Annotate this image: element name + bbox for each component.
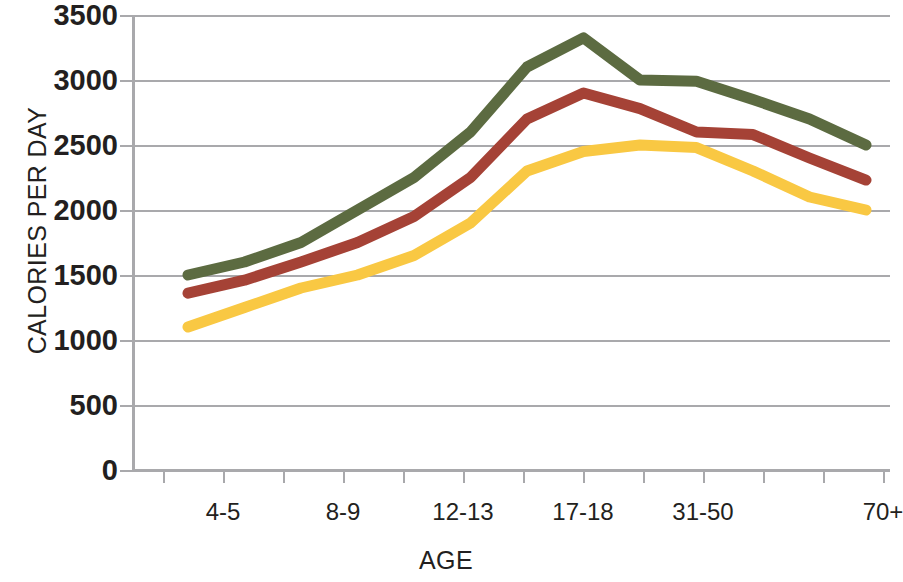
y-axis-tick bbox=[120, 15, 132, 17]
x-axis-tick bbox=[703, 470, 705, 483]
y-axis-tick bbox=[120, 340, 132, 342]
x-axis-tick bbox=[283, 470, 285, 483]
y-axis-tick bbox=[120, 145, 132, 147]
x-axis-tick-labels: 4-58-912-1317-1831-5070+ bbox=[0, 498, 892, 532]
y-axis-tick bbox=[120, 470, 132, 472]
y-axis-tick bbox=[120, 80, 132, 82]
x-axis-tick-label: 70+ bbox=[863, 498, 903, 526]
x-axis-tick bbox=[343, 470, 345, 483]
x-axis-tick bbox=[523, 470, 525, 483]
y-axis-tick bbox=[120, 275, 132, 277]
x-axis-tick bbox=[223, 470, 225, 483]
y-axis-tick-label: 3500 bbox=[53, 1, 118, 30]
x-axis-tick bbox=[763, 470, 765, 483]
x-axis-tick bbox=[643, 470, 645, 483]
plot-area bbox=[132, 15, 890, 470]
y-axis-tick bbox=[120, 405, 132, 407]
y-axis-tick-label: 3000 bbox=[53, 66, 118, 95]
x-axis-tick bbox=[823, 470, 825, 483]
series-line-upper bbox=[188, 38, 866, 275]
series-line-middle bbox=[188, 93, 866, 293]
x-axis-tick bbox=[583, 470, 585, 483]
x-axis-tick bbox=[883, 470, 885, 483]
y-axis-tick-label: 500 bbox=[70, 391, 118, 420]
y-axis-tick bbox=[120, 210, 132, 212]
x-axis-tick-label: 17-18 bbox=[552, 498, 613, 526]
x-axis-tick bbox=[403, 470, 405, 483]
y-axis-tick-label: 2000 bbox=[53, 196, 118, 225]
x-axis-title: AGE bbox=[0, 546, 892, 575]
x-axis-tick bbox=[163, 470, 165, 483]
x-axis-tick bbox=[463, 470, 465, 483]
y-axis-tick-label: 2500 bbox=[53, 131, 118, 160]
x-axis-tick-label: 31-50 bbox=[672, 498, 733, 526]
x-axis-tick-label: 12-13 bbox=[432, 498, 493, 526]
x-axis-ticks bbox=[132, 470, 890, 484]
x-axis-tick-label: 4-5 bbox=[206, 498, 241, 526]
y-axis-tick-label: 1000 bbox=[53, 326, 118, 355]
data-series-layer bbox=[132, 15, 890, 470]
x-axis-tick-label: 8-9 bbox=[326, 498, 361, 526]
y-axis-tick-label: 1500 bbox=[53, 261, 118, 290]
y-axis-tick-labels: 0500100015002000250030003500 bbox=[0, 0, 126, 582]
series-line-lower bbox=[188, 145, 866, 327]
y-axis-tick-label: 0 bbox=[102, 456, 118, 485]
